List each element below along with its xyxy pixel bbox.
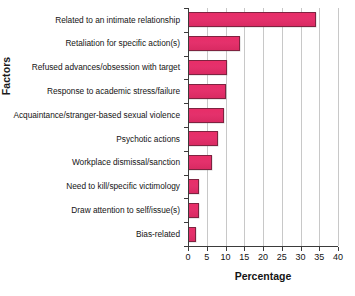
bar-slot	[188, 32, 338, 56]
bar[interactable]	[188, 155, 212, 170]
y-axis-tick	[184, 32, 188, 33]
bar[interactable]	[188, 36, 240, 51]
y-axis-tick	[184, 56, 188, 57]
y-axis-tick-label: Response to academic stress/failure	[18, 79, 184, 103]
y-axis-tick	[184, 151, 188, 152]
y-axis-tick	[184, 198, 188, 199]
bar[interactable]	[188, 227, 196, 242]
bar-slot	[188, 222, 338, 246]
bar[interactable]	[188, 60, 227, 75]
bar-slot	[188, 127, 338, 151]
x-axis-tick	[226, 247, 227, 251]
bar[interactable]	[188, 203, 199, 218]
bar[interactable]	[188, 12, 316, 27]
x-axis-tick	[207, 247, 208, 251]
bar-slot	[188, 198, 338, 222]
bar[interactable]	[188, 84, 226, 99]
y-axis-tick-label: Acquaintance/stranger-based sexual viole…	[18, 103, 184, 127]
x-axis-title: Percentage	[188, 270, 338, 282]
gridline	[338, 8, 339, 246]
y-axis-tick	[184, 8, 188, 9]
bar[interactable]	[188, 131, 218, 146]
y-axis-title: Factors	[0, 36, 14, 116]
bar-series	[188, 8, 338, 246]
bar-slot	[188, 56, 338, 80]
y-axis-tick-label: Draw attention to self/issue(s)	[18, 198, 184, 222]
y-axis-tick	[184, 175, 188, 176]
bar[interactable]	[188, 108, 224, 123]
plot-area	[188, 8, 338, 246]
bar-chart: Factors Related to an intimate relations…	[0, 0, 355, 296]
x-axis-tick	[319, 247, 320, 251]
x-axis-tick	[338, 247, 339, 251]
y-axis-tick-label: Refused advances/obsession with target	[18, 56, 184, 80]
bar-slot	[188, 103, 338, 127]
y-axis-line	[188, 8, 189, 247]
y-axis-tick	[184, 103, 188, 104]
x-axis-tick	[282, 247, 283, 251]
x-axis-tick	[244, 247, 245, 251]
bar-slot	[188, 79, 338, 103]
bar-slot	[188, 151, 338, 175]
y-axis-tick-label: Psychotic actions	[18, 127, 184, 151]
y-axis-tick	[184, 246, 188, 247]
y-axis-tick-label: Retaliation for specific action(s)	[18, 32, 184, 56]
y-axis-tick	[184, 222, 188, 223]
y-axis-tick-label: Need to kill/specific victimology	[18, 175, 184, 199]
y-axis-tick-labels: Related to an intimate relationshipRetal…	[18, 8, 184, 246]
x-axis-tick-label: 40	[326, 252, 350, 262]
x-axis-tick	[188, 247, 189, 251]
y-axis-tick-label: Related to an intimate relationship	[18, 8, 184, 32]
y-axis-tick-label: Workplace dismissal/sanction	[18, 151, 184, 175]
y-axis-tick	[184, 79, 188, 80]
bar-slot	[188, 8, 338, 32]
y-axis-tick-label: Bias-related	[18, 222, 184, 246]
y-axis-tick	[184, 127, 188, 128]
bar[interactable]	[188, 179, 199, 194]
x-axis-tick	[263, 247, 264, 251]
bar-slot	[188, 175, 338, 199]
x-axis-tick	[301, 247, 302, 251]
